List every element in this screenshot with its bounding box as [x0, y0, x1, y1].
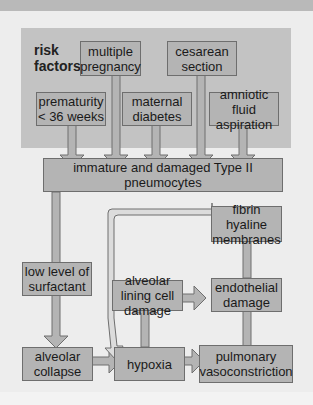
node-endothelial: endothelial damage: [211, 278, 282, 312]
endothelial-label: endothelial damage: [212, 280, 281, 310]
cesarean-section-label: cesarean section: [168, 44, 236, 74]
node-maternal-diabetes: maternal diabetes: [122, 92, 192, 126]
node-pneumocytes: immature and damaged Type II pneumocytes: [43, 158, 283, 192]
node-surfactant: low level of surfactant: [22, 262, 92, 296]
surfactant-label: low level of surfactant: [23, 264, 91, 294]
multiple-pregnancy-label: multiple pregnancy: [80, 44, 141, 74]
node-amniotic-fluid: amniotic fluid aspiration: [209, 92, 279, 126]
node-multiple-pregnancy: multiple pregnancy: [80, 41, 141, 76]
arrow-to-collapse: [44, 293, 68, 348]
node-lining-damage: alveolar lining cell damage: [112, 280, 183, 311]
node-hypoxia: hypoxia: [114, 347, 185, 381]
hypoxia-label: hypoxia: [127, 357, 172, 372]
node-cesarean-section: cesarean section: [167, 41, 237, 76]
node-vasoconstriction: pulmonary vasoconstriction: [199, 345, 293, 383]
lining-damage-label: alveolar lining cell damage: [113, 273, 182, 318]
maternal-diabetes-label: maternal diabetes: [123, 94, 191, 124]
collapse-label: alveolar collapse: [23, 349, 92, 379]
node-prematurity: prematurity < 36 weeks: [36, 92, 106, 126]
prematurity-label: prematurity < 36 weeks: [37, 94, 105, 124]
node-fibrin: fibrin hyaline membranes: [211, 206, 282, 242]
node-collapse: alveolar collapse: [22, 347, 93, 381]
amniotic-fluid-label: amniotic fluid aspiration: [210, 87, 278, 132]
vasoconstriction-label: pulmonary vasoconstriction: [199, 349, 292, 379]
pneumocytes-label: immature and damaged Type II pneumocytes: [44, 160, 282, 190]
bottom-strip: [0, 392, 313, 405]
fibrin-label: fibrin hyaline membranes: [212, 202, 281, 247]
